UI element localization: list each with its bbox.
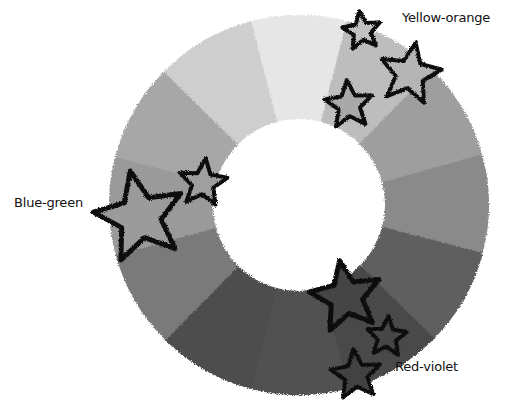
color-wheel-diagram: Yellow-orange Blue-green Red-violet [0,0,509,412]
label-yellow-orange: Yellow-orange [402,10,490,25]
label-red-violet: Red-violet [395,359,458,374]
label-blue-green: Blue-green [14,195,83,210]
